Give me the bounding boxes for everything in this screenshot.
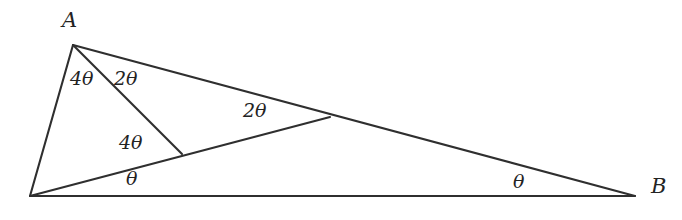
segment-a-c: [30, 45, 73, 196]
angle-label-a-outer: 4θ: [70, 69, 94, 88]
angle-label-a-inner: 2θ: [114, 69, 138, 88]
angle-label-d: 4θ: [119, 133, 143, 152]
angle-label-c: θ: [126, 169, 137, 188]
figure-canvas: [0, 0, 682, 220]
geometry-figure: A B 4θ 2θ 4θ θ 2θ θ: [0, 0, 682, 220]
segment-a-b: [73, 45, 635, 196]
vertex-label-b: B: [651, 176, 667, 197]
segment-c-e: [30, 117, 330, 196]
angle-label-b: θ: [513, 172, 524, 191]
vertex-label-a: A: [62, 10, 77, 31]
angle-label-e: 2θ: [243, 101, 267, 120]
